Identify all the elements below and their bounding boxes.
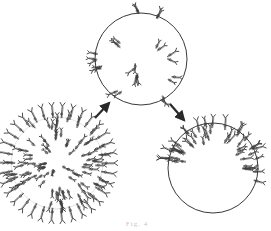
receptor-icon: [87, 50, 98, 54]
receptor-icon: [193, 116, 200, 132]
receptor-icon: [38, 206, 45, 222]
receptor-capping-diagram: [0, 0, 271, 231]
receptor-icon: [253, 169, 265, 173]
arrow-patching-to-capping-icon: [170, 104, 184, 120]
receptor-icon: [90, 193, 104, 206]
receptor-icon: [49, 102, 54, 118]
transition-arrows: [95, 103, 184, 120]
receptor-icon: [99, 179, 115, 187]
receptor-icon: [90, 120, 104, 133]
receptor-icon: [18, 198, 30, 213]
receptor-icon: [0, 149, 13, 155]
receptor-icon: [101, 171, 117, 177]
receptor-icon: [86, 56, 96, 60]
receptor-icon: [211, 114, 216, 128]
receptor-icon: [68, 206, 76, 222]
receptor-icon: [101, 149, 117, 155]
uniform-receptor-cell: [0, 102, 118, 224]
receptor-icon: [0, 160, 12, 165]
receptor-icon: [172, 76, 183, 80]
receptor-icon: [95, 129, 110, 140]
receptor-icon: [38, 104, 46, 120]
receptor-icon: [156, 39, 162, 49]
receptor-icon: [10, 193, 24, 206]
receptor-icon: [84, 113, 96, 128]
receptor-icon: [243, 165, 252, 168]
receptor-icon: [0, 138, 15, 146]
patching-receptor-cell: [86, 2, 187, 107]
receptor-icon: [4, 129, 19, 140]
receptor-icon: [237, 134, 247, 148]
receptor-icon: [201, 136, 205, 145]
receptor-icon: [168, 79, 177, 85]
receptor-icon: [27, 203, 37, 219]
receptor-icon: [77, 107, 87, 123]
receptor-icon: [0, 178, 15, 187]
receptor-icon: [60, 102, 65, 118]
receptor-icon: [167, 59, 178, 65]
receptor-icon: [223, 114, 228, 130]
receptor-icon: [99, 138, 115, 147]
receptor-icon: [208, 124, 211, 134]
receptor-icon: [167, 48, 179, 58]
receptor-icon: [157, 43, 168, 52]
arrow-uniform-to-patching-icon: [95, 103, 109, 118]
capping-receptor-cell: [156, 114, 266, 213]
receptor-icon: [156, 156, 169, 160]
receptor-icon: [76, 203, 86, 218]
receptor-icon: [237, 121, 245, 133]
receptor-icon: [10, 120, 24, 133]
receptor-icon: [240, 155, 254, 160]
receptor-icon: [95, 187, 110, 198]
figure-caption: Fig. 4: [112, 220, 162, 228]
